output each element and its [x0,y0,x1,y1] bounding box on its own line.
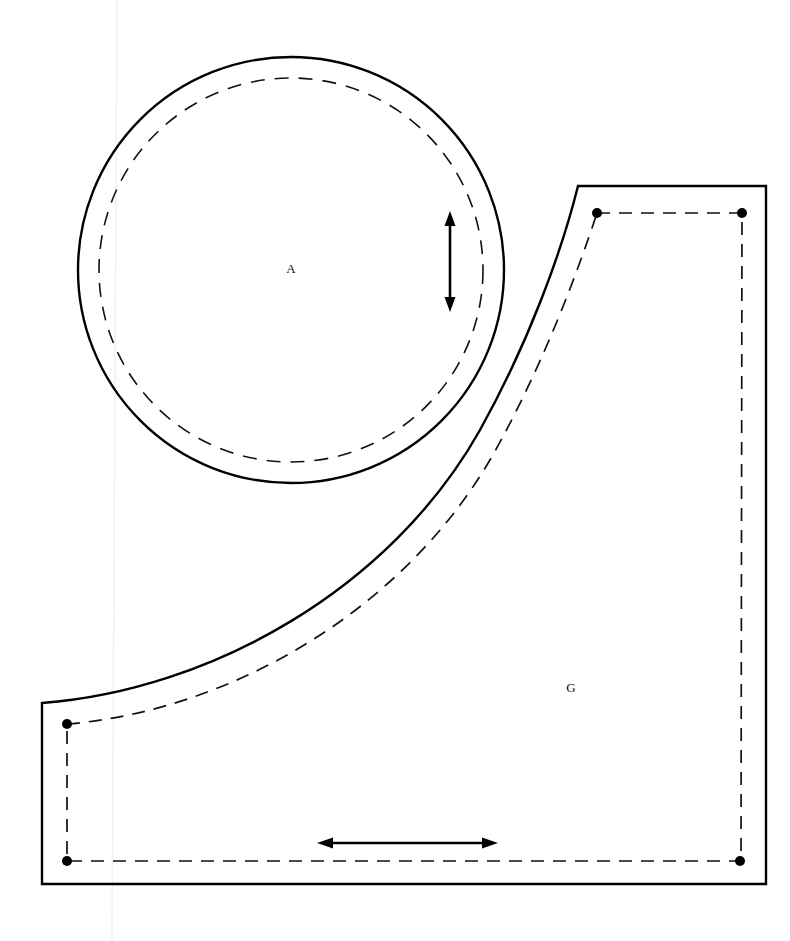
pattern-drawing-canvas: A G [0,0,790,941]
pattern-piece-g[interactable]: G [42,186,766,884]
seam-dot-bottom-left [62,856,72,866]
arrowhead-right-icon [482,838,498,849]
piece-g-seam-line-straight [67,213,742,861]
seam-dot-top-right [737,208,747,218]
piece-g-grain-arrow-icon [317,838,498,849]
arrowhead-up-icon [445,211,456,226]
piece-a-label: A [286,261,296,276]
piece-g-seam-line-curve [67,213,597,724]
pattern-sheet: A G [0,0,790,941]
seam-dot-bottom-right [735,856,745,866]
scan-artifact-line [112,0,117,941]
arrowhead-down-icon [445,297,456,312]
piece-a-grain-arrow-icon [445,211,456,312]
seam-dot-left-curve-start [62,719,72,729]
pattern-piece-a[interactable]: A [78,57,504,483]
seam-dot-top-left [592,208,602,218]
arrowhead-left-icon [317,838,333,849]
piece-g-cut-line [42,186,766,884]
piece-g-label: G [566,680,576,695]
